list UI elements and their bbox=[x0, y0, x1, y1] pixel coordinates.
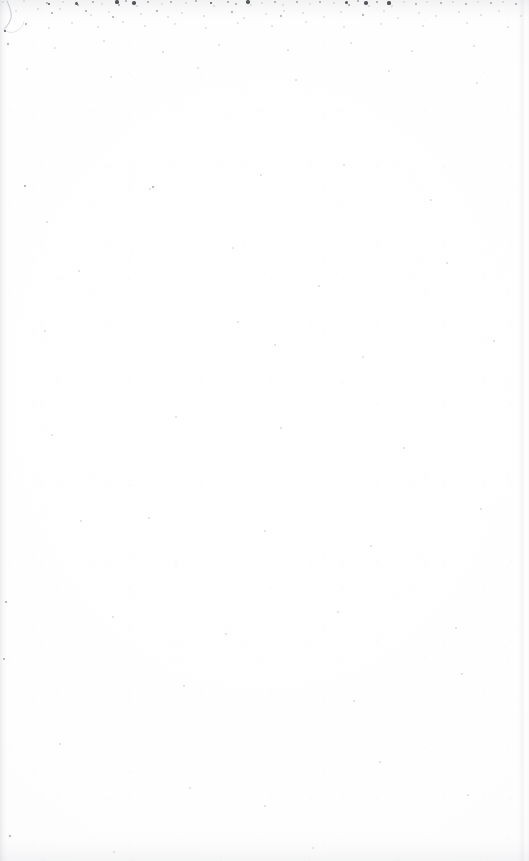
paper-grain-texture bbox=[0, 0, 529, 861]
top-edge-shading bbox=[0, 0, 529, 26]
scanned-page bbox=[0, 0, 529, 861]
right-edge-shading bbox=[518, 0, 525, 861]
pen-stroke-faint-path bbox=[4, 22, 24, 32]
left-gutter-shadow bbox=[0, 0, 8, 861]
pen-stroke-arc-icon bbox=[0, 0, 70, 46]
pen-stroke-main-path bbox=[4, 1, 11, 30]
bottom-edge-shading bbox=[0, 827, 529, 861]
